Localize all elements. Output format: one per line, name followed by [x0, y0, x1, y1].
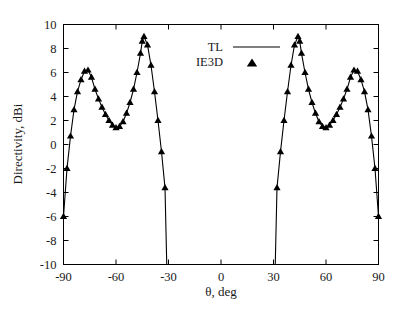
y-tick-label: 4: [50, 90, 57, 104]
x-tick-label: 60: [320, 270, 333, 284]
x-tick-label: 90: [372, 270, 385, 284]
y-tick-label: 10: [44, 18, 57, 32]
y-tick-label: -6: [46, 210, 56, 224]
y-tick-label: -2: [46, 162, 56, 176]
legend-label-ie3d: IE3D: [196, 55, 223, 69]
x-axis-title: θ, deg: [205, 284, 237, 299]
y-tick-label: 0: [50, 138, 56, 152]
y-tick-label: 2: [50, 114, 56, 128]
y-tick-label: 8: [50, 42, 56, 56]
x-tick-label: 30: [267, 270, 280, 284]
legend-label-tl: TL: [208, 40, 223, 54]
y-tick-label: -4: [46, 186, 57, 200]
chart-background: [0, 0, 404, 314]
x-tick-label: 0: [218, 270, 224, 284]
y-tick-label: 6: [50, 66, 56, 80]
figure-container: -90-60-300306090 -10-8-6-4-20246810 θ, d…: [0, 0, 404, 314]
x-tick-label: -90: [55, 270, 72, 284]
x-tick-label: -30: [160, 270, 177, 284]
directivity-pattern-chart: -90-60-300306090 -10-8-6-4-20246810 θ, d…: [0, 0, 404, 314]
y-tick-label: -8: [46, 234, 56, 248]
y-axis-title: Directivity, dBi: [10, 103, 25, 184]
y-tick-label: -10: [40, 258, 57, 272]
x-tick-label: -60: [108, 270, 125, 284]
